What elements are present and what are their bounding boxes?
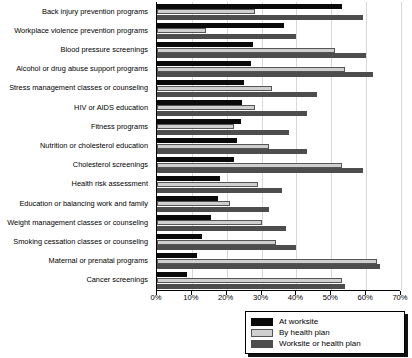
bar (157, 182, 258, 187)
category-axis-labels: Back injury prevention programsWorkplace… (0, 2, 152, 290)
legend-swatch-icon (251, 340, 273, 348)
bar (157, 272, 187, 277)
bar (157, 80, 244, 85)
category-label: Nutrition or cholesterol education (40, 141, 148, 150)
category-label: Workplace violence prevention programs (14, 26, 148, 35)
category-label: Smoking cessation classes or counseling (13, 237, 148, 246)
bar (157, 15, 363, 20)
category-label: Stress management classes or counseling (9, 83, 148, 92)
bar (157, 168, 363, 173)
bar-group (157, 136, 401, 155)
category-label: Education or balancing work and family (19, 199, 148, 208)
bar-group (157, 271, 401, 290)
bar-group (157, 175, 401, 194)
bar (157, 72, 373, 77)
category-label: Health risk assessment (72, 179, 148, 188)
category-label: Maternal or prenatal programs (49, 256, 148, 265)
x-axis-tick-label: 50% (315, 293, 345, 303)
legend-swatch-icon (251, 318, 273, 326)
bar (157, 42, 253, 47)
bar (157, 61, 251, 66)
x-axis-tick-label: 10% (176, 293, 206, 303)
bar-group (157, 60, 401, 79)
legend-label: Worksite or health plan (279, 339, 361, 349)
bar (157, 215, 211, 220)
category-label: Blood pressure screenings (60, 45, 148, 54)
bar (157, 28, 206, 33)
bar (157, 48, 335, 53)
bar (157, 105, 255, 110)
x-axis-tick-label: 40% (280, 293, 310, 303)
bar (157, 86, 272, 91)
bar (157, 144, 269, 149)
bar-group (157, 213, 401, 232)
bar (157, 4, 342, 9)
legend-label: By health plan (279, 328, 330, 338)
category-label: Back injury prevention programs (42, 7, 148, 16)
category-label: Cholesterol screenings (73, 160, 148, 169)
bar (157, 253, 197, 258)
bar (157, 234, 202, 239)
bar (157, 188, 282, 193)
bar (157, 124, 234, 129)
bar (157, 138, 237, 143)
legend-item: Worksite or health plan (251, 338, 399, 349)
legend-swatch-icon (251, 329, 273, 337)
legend-item: At worksite (251, 316, 399, 327)
bar (157, 111, 307, 116)
bar-group (157, 156, 401, 175)
legend-label: At worksite (279, 317, 318, 327)
x-axis-tick-label: 60% (350, 293, 380, 303)
bar-group (157, 252, 401, 271)
category-label: Weight management classes or counseling (7, 218, 148, 227)
bar (157, 163, 342, 168)
bar (157, 278, 342, 283)
category-label: Fitness programs (91, 122, 148, 131)
gridline (401, 2, 402, 290)
bar-group (157, 98, 401, 117)
bar (157, 196, 218, 201)
bar (157, 259, 377, 264)
x-axis-tick-label: 70% (385, 293, 412, 303)
x-axis-tick-label: 0% (141, 293, 171, 303)
bar-group (157, 117, 401, 136)
bar (157, 264, 380, 269)
bar (157, 245, 296, 250)
category-label: HIV or AIDS education (74, 103, 148, 112)
chart-legend: At worksiteBy health planWorksite or hea… (245, 311, 405, 354)
bar (157, 207, 269, 212)
bar-group (157, 40, 401, 59)
bar (157, 240, 276, 245)
bar (157, 100, 242, 105)
bar (157, 176, 220, 181)
bar (157, 53, 366, 58)
x-axis-tick-label: 20% (211, 293, 241, 303)
category-label: Alcohol or drug abuse support programs (16, 64, 148, 73)
bar (157, 92, 317, 97)
bar (157, 220, 262, 225)
legend-item: By health plan (251, 327, 399, 338)
bar (157, 34, 296, 39)
bar-group (157, 232, 401, 251)
bar-chart: Back injury prevention programsWorkplace… (0, 0, 412, 358)
bar (157, 157, 234, 162)
bar (157, 119, 241, 124)
bar-group (157, 21, 401, 40)
bar (157, 226, 286, 231)
bar (157, 9, 255, 14)
bar (157, 201, 230, 206)
bar (157, 130, 289, 135)
bar (157, 23, 284, 28)
bar (157, 284, 345, 289)
bar (157, 67, 345, 72)
bar-group (157, 2, 401, 21)
bar (157, 149, 307, 154)
bar-group (157, 79, 401, 98)
plot-area (156, 2, 401, 290)
x-axis-tick-label: 30% (246, 293, 276, 303)
category-label: Cancer screenings (86, 275, 148, 284)
bar-group (157, 194, 401, 213)
